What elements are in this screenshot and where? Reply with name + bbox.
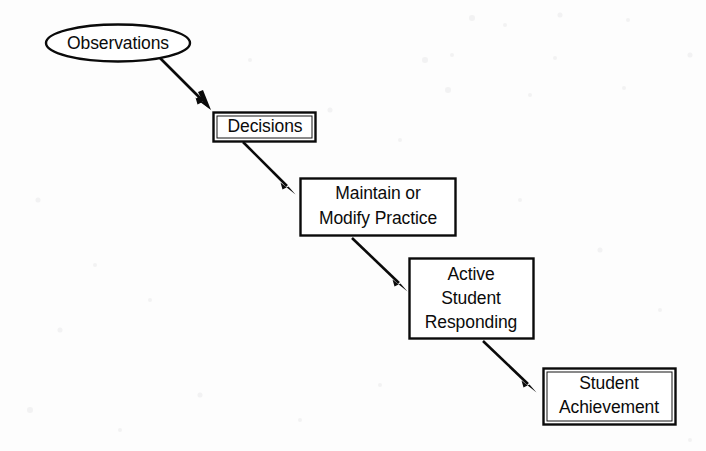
edge-observations-decisions <box>157 55 211 110</box>
node-maintain-line-0: Maintain or <box>335 183 421 203</box>
node-student-achievement: Student Achievement <box>544 369 676 425</box>
node-observations-line-0: Observations <box>67 33 169 53</box>
node-active-line-2: Responding <box>425 312 517 332</box>
node-observations: Observations <box>46 25 190 62</box>
flowchart-diagram: Observations Decisions Maintain or Modif… <box>0 0 706 451</box>
node-decisions-line-0: Decisions <box>228 116 303 136</box>
node-achievement-line-1: Achievement <box>559 397 659 417</box>
node-active-line-1: Student <box>441 288 501 308</box>
node-achievement-line-0: Student <box>579 373 639 393</box>
node-active-student-responding: Active Student Responding <box>410 259 534 339</box>
edge-decisions-maintain <box>243 142 296 195</box>
edge-active-achievement <box>483 341 537 393</box>
flowchart-canvas: Observations Decisions Maintain or Modif… <box>0 0 706 451</box>
node-decisions: Decisions <box>214 113 316 142</box>
node-maintain-or-modify-practice: Maintain or Modify Practice <box>301 179 456 236</box>
node-maintain-line-1: Modify Practice <box>319 208 437 228</box>
node-active-line-0: Active <box>447 264 494 284</box>
edge-maintain-active <box>352 238 408 292</box>
